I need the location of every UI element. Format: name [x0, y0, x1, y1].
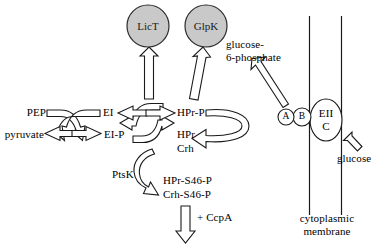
eip-label: EI-P	[104, 128, 125, 141]
ptsk-arrow-shape	[134, 149, 159, 195]
membrane-label-line2: membrane	[288, 225, 366, 238]
glucose-label: glucose	[337, 152, 371, 165]
eiia-label: A	[278, 111, 294, 121]
eiic-label-line1: EII	[311, 107, 341, 120]
crh-s46-p-label: Crh-S46-P	[163, 188, 211, 201]
g6p-production-arrow	[251, 57, 289, 108]
ccpa-label: + CcpA	[197, 211, 232, 224]
hpr-p-label: HPr-P	[177, 106, 205, 119]
hpr-s46-p-label: HPr-S46-P	[163, 174, 212, 187]
hprp-to-glpk-arrow	[190, 47, 211, 100]
glpk-label: GlpK	[186, 20, 226, 32]
g6p-label-line2: 6-phosphate	[226, 51, 281, 64]
pyruvate-label: pyruvate	[0, 128, 44, 141]
g6p-arrow-shape	[251, 57, 289, 108]
hprp-to-lict-arrow	[140, 47, 158, 99]
eiib-label: B	[294, 111, 310, 121]
glpk-arrow-shape	[190, 47, 211, 100]
ei-label: EI	[103, 106, 114, 119]
hpr-label: HPr	[177, 128, 195, 141]
pyruvate-arrowhead	[45, 127, 74, 141]
ccpa-complex-arrow	[176, 206, 195, 243]
eip-to-hprp-arrow	[133, 116, 174, 143]
ccpa-arrow-shape	[176, 206, 195, 243]
membrane-label-line1: cytoplasmic	[288, 212, 366, 225]
pathway-diagram: LicT GlpK PEP pyruvate EI EI-P HPr-P HPr…	[0, 0, 379, 246]
lict-arrow-shape	[140, 47, 158, 99]
ptsk-phosphorylation-arrow	[134, 149, 159, 195]
pyruvate-arrowhead-group	[45, 127, 74, 141]
glucose-uptake-arrow	[344, 132, 363, 151]
pep-label: PEP	[0, 106, 46, 119]
ptsk-label: PtsK	[112, 168, 134, 181]
lict-label: LicT	[128, 20, 168, 32]
eiic-label-line2: C	[311, 120, 341, 133]
crh-label: Crh	[177, 142, 194, 155]
glucose-arrow-shape	[344, 132, 363, 151]
g6p-label-line1: glucose-	[226, 38, 264, 51]
